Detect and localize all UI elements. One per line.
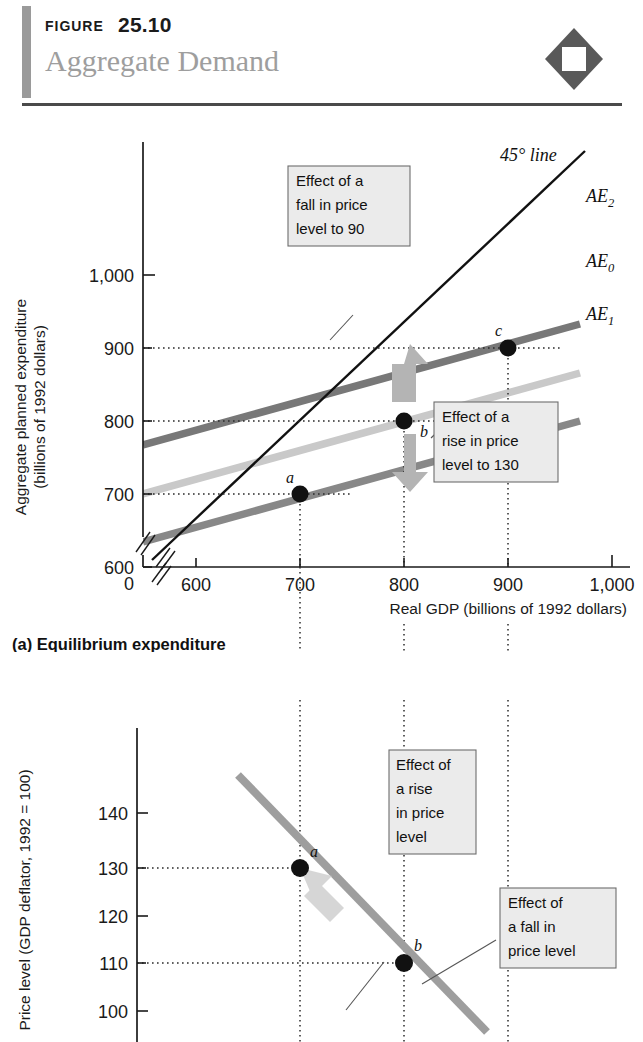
leader-line-rise-bottom (346, 962, 384, 1010)
leader-line-fall-callout (330, 315, 353, 340)
data-point-a (292, 486, 309, 503)
callout-rise-bottom-line2: a rise (396, 780, 433, 797)
callout-rise-bottom-line1: Effect of (396, 756, 452, 773)
callout-rise-bottom-line4: level (396, 828, 427, 845)
data-point-a-bottom (291, 859, 309, 877)
y-tick-label-1000: 1,000 (89, 266, 134, 286)
data-point-label-a: a (286, 469, 294, 486)
x-tick-label-900: 900 (493, 575, 523, 595)
curve-label-ae2: AE2 (585, 186, 614, 210)
leader-line-fall-bottom (422, 940, 496, 984)
y-tick-label-110: 110 (99, 954, 128, 974)
y-tick-label-900: 900 (104, 339, 134, 359)
data-point-label-c: c (495, 322, 502, 339)
y-axis-title-line1: Aggregate planned expenditure (12, 299, 29, 515)
callout-rise-line2: rise in price (442, 432, 519, 449)
callout-rise-line3: level to 130 (442, 456, 519, 473)
chart-equilibrium-expenditure: 1,000 900 800 700 600 0 600 700 800 900 … (0, 112, 643, 652)
data-point-b-bottom (395, 954, 413, 972)
panel-a-caption: (a) Equilibrium expenditure (12, 635, 226, 652)
figure-number: 25.10 (118, 13, 172, 37)
callout-fall-bottom-line1: Effect of (508, 894, 564, 911)
y-tick-label-700: 700 (104, 485, 134, 505)
figure-kicker: FIGURE (45, 18, 104, 34)
data-point-b (396, 413, 413, 430)
curve-label-ae1: AE1 (585, 304, 614, 328)
header-accent-bar (22, 6, 31, 98)
y-axis-title-line2: (billions of 1992 dollars) (31, 325, 48, 489)
data-point-label-a-bottom: a (310, 843, 318, 860)
y-tick-label-800: 800 (104, 412, 134, 432)
data-point-label-b: b (420, 423, 428, 440)
figure-header: FIGURE 25.10 Aggregate Demand (0, 0, 643, 112)
chart-aggregate-demand: 140 130 120 110 100 Price level (GDP def… (0, 700, 643, 1042)
header-divider (22, 103, 622, 106)
y-tick-label-140: 140 (98, 804, 128, 824)
x-tick-label-1000: 1,000 (589, 575, 634, 595)
x-tick-label-600: 600 (181, 575, 211, 595)
x-axis-title: Real GDP (billions of 1992 dollars) (390, 600, 628, 617)
y-axis-ticks-bottom (137, 813, 148, 1011)
curve-label-ae0: AE0 (585, 251, 615, 275)
data-point-label-b-bottom: b (414, 937, 422, 954)
callout-fall-bottom-line2: a fall in (508, 918, 556, 935)
y-axis-title-bottom: Price level (GDP deflator, 1992 = 100) (16, 769, 33, 1030)
diamond-square-icon (543, 26, 605, 92)
figure-title: Aggregate Demand (45, 44, 279, 78)
y-tick-label-130: 130 (98, 859, 128, 879)
x-tick-label-800: 800 (389, 575, 419, 595)
data-point-c (500, 340, 517, 357)
y-tick-label-120: 120 (98, 907, 128, 927)
callout-rise-line1: Effect of a (442, 408, 510, 425)
callout-rise-bottom-line3: in price (396, 804, 444, 821)
callout-fall-bottom-line3: price level (508, 942, 576, 959)
callout-fall-line2: fall in price (296, 196, 368, 213)
curve-label-45-degree: 45° line (500, 145, 557, 165)
up-arrow-shift (392, 344, 428, 402)
origin-label: 0 (124, 574, 134, 594)
callout-fall-line1: Effect of a (296, 172, 364, 189)
callout-fall-line3: level to 90 (296, 220, 364, 237)
y-tick-label-100: 100 (98, 1002, 128, 1022)
